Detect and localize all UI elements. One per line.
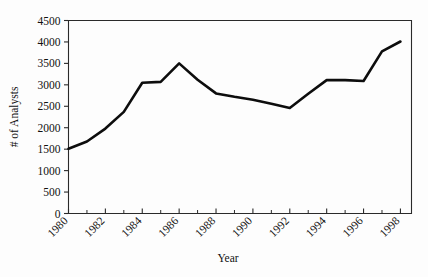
- y-tick-label-1000: 1000: [38, 165, 61, 177]
- x-tick-label-1982: 1982: [82, 214, 107, 239]
- y-tick-label-500: 500: [43, 186, 61, 198]
- line-chart: 050010001500200025003000350040004500 198…: [0, 0, 428, 277]
- x-tick-label-1990: 1990: [230, 214, 255, 239]
- x-tick-label-1984: 1984: [119, 214, 144, 239]
- x-axis-ticks: [69, 209, 401, 214]
- x-tick-label-1980: 1980: [45, 214, 70, 239]
- x-tick-label-1992: 1992: [266, 214, 291, 239]
- y-tick-label-3000: 3000: [38, 79, 61, 91]
- y-tick-label-4500: 4500: [38, 15, 61, 27]
- y-tick-label-4000: 4000: [38, 36, 61, 48]
- x-tick-label-1988: 1988: [193, 214, 218, 239]
- x-tick-label-1986: 1986: [156, 214, 181, 239]
- y-axis-title: # of Analysts: [8, 86, 21, 147]
- y-tick-label-1500: 1500: [38, 143, 61, 155]
- y-axis-tick-labels: 050010001500200025003000350040004500: [38, 15, 61, 220]
- x-tick-label-1994: 1994: [303, 214, 328, 239]
- y-tick-label-2000: 2000: [38, 122, 61, 134]
- y-tick-label-2500: 2500: [38, 100, 61, 112]
- data-series-line: [69, 42, 401, 149]
- x-axis-tick-labels: 1980198219841986198819901992199419961998: [45, 214, 402, 239]
- x-tick-label-1998: 1998: [377, 214, 402, 239]
- y-tick-label-3500: 3500: [38, 57, 61, 69]
- y-axis-ticks: [64, 21, 69, 214]
- chart-container: 050010001500200025003000350040004500 198…: [0, 0, 428, 277]
- x-axis-title: Year: [217, 252, 238, 264]
- x-tick-label-1996: 1996: [340, 214, 365, 239]
